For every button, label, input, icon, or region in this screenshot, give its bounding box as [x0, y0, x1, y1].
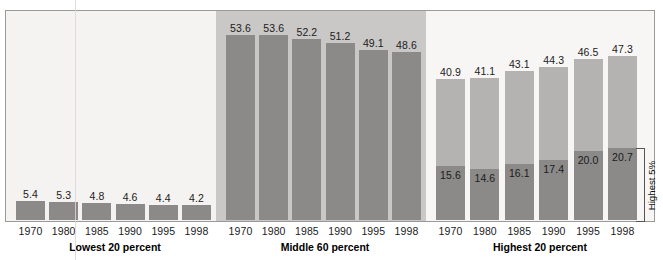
bar-value-label-highest-5-percent: 20.7 — [612, 151, 633, 163]
bar-value-label-highest-5-percent: 14.6 — [474, 172, 495, 184]
bar-value-label: 49.1 — [363, 37, 384, 49]
x-axis-tick-label: 1985 — [507, 225, 531, 237]
bar-segment — [326, 43, 355, 220]
bar-segment-upper — [608, 56, 637, 148]
bar-value-label: 47.3 — [612, 43, 633, 55]
highest-5-percent-label: Highest 5% — [647, 160, 658, 210]
x-axis-tick-label: 1970 — [229, 225, 253, 237]
x-axis-tick-label: 1998 — [395, 225, 419, 237]
x-axis-tick-label: 1995 — [576, 225, 600, 237]
group-label-lowest: Lowest 20 percent — [69, 241, 161, 253]
bar-segment — [16, 201, 45, 220]
x-axis-tick-label: 1995 — [151, 225, 175, 237]
bar-value-label: 44.3 — [543, 54, 564, 66]
bars-layer: 5.45.34.84.64.44.253.653.652.251.249.148… — [5, 10, 655, 222]
bar: 51.2 — [326, 43, 355, 220]
bar: 15.640.9 — [436, 79, 465, 221]
bar-value-label-highest-5-percent: 20.0 — [578, 154, 599, 166]
highest-5-percent-bracket — [636, 148, 645, 222]
x-axis-tick-label: 1980 — [52, 225, 76, 237]
bar-segment — [116, 204, 145, 220]
group-label-highest: Highest 20 percent — [493, 241, 587, 253]
bar-value-label: 4.8 — [89, 190, 104, 202]
x-axis-tick-label: 1990 — [328, 225, 352, 237]
bar: 4.6 — [116, 204, 145, 220]
bar: 20.046.5 — [574, 59, 603, 220]
bar-value-label: 52.2 — [296, 26, 317, 38]
bar-segment — [149, 205, 178, 220]
bar: 53.6 — [259, 35, 288, 220]
x-axis-tick-label: 1995 — [361, 225, 385, 237]
bar: 53.6 — [226, 35, 255, 220]
bar-value-label: 46.5 — [578, 46, 599, 58]
bar-value-label-highest-5-percent: 17.4 — [543, 163, 564, 175]
bar: 49.1 — [359, 50, 388, 220]
bar-value-label-highest-5-percent: 16.1 — [509, 167, 530, 179]
bar-value-label: 4.2 — [189, 192, 204, 204]
bar-value-label: 53.6 — [263, 22, 284, 34]
bar-segment — [49, 202, 78, 220]
bar: 14.641.1 — [470, 78, 499, 220]
bar: 4.2 — [182, 205, 211, 220]
bar: 48.6 — [392, 52, 421, 220]
bar-segment — [226, 35, 255, 220]
bar-segment-upper — [436, 79, 465, 167]
bar: 16.143.1 — [505, 71, 534, 220]
bar-segment — [82, 203, 111, 220]
x-axis-tick-label: 1970 — [19, 225, 43, 237]
bar-segment — [392, 52, 421, 220]
highest-5-percent-label-wrap: Highest 5% — [645, 148, 659, 222]
bar-segment-upper — [470, 78, 499, 170]
x-axis-tick-label: 1998 — [611, 225, 635, 237]
bar-value-label: 5.3 — [56, 189, 71, 201]
bar-segment-upper — [539, 67, 568, 160]
bar-segment-upper — [505, 71, 534, 164]
bar: 4.4 — [149, 205, 178, 220]
bar: 52.2 — [292, 39, 321, 220]
x-axis-tick-label: 1990 — [542, 225, 566, 237]
x-axis-tick-label: 1980 — [262, 225, 286, 237]
bar-segment — [359, 50, 388, 220]
bar-segment-upper — [574, 59, 603, 151]
bar: 20.747.3 — [608, 56, 637, 220]
bar-value-label: 4.4 — [156, 192, 171, 204]
x-axis-tick-label: 1980 — [473, 225, 497, 237]
chart-root: 5.45.34.84.64.44.253.653.652.251.249.148… — [0, 0, 663, 260]
bar-value-label: 5.4 — [23, 188, 38, 200]
bar-segment — [292, 39, 321, 220]
x-axis-tick-label: 1970 — [439, 225, 463, 237]
bar: 5.3 — [49, 202, 78, 220]
bar: 17.444.3 — [539, 67, 568, 220]
bar-value-label: 4.6 — [123, 191, 138, 203]
bar: 4.8 — [82, 203, 111, 220]
bar-segment — [182, 205, 211, 220]
bar-value-label: 43.1 — [509, 58, 530, 70]
bar-value-label: 53.6 — [230, 22, 251, 34]
bar-value-label: 48.6 — [396, 39, 417, 51]
bar: 5.4 — [16, 201, 45, 220]
x-axis-tick-label: 1998 — [185, 225, 209, 237]
bar-value-label-highest-5-percent: 15.6 — [440, 169, 461, 181]
group-label-middle: Middle 60 percent — [281, 241, 370, 253]
bar-segment — [259, 35, 288, 220]
x-axis-tick-label: 1990 — [118, 225, 142, 237]
bar-value-label: 51.2 — [330, 30, 351, 42]
bar-value-label: 41.1 — [474, 65, 495, 77]
x-axis-tick-label: 1985 — [295, 225, 319, 237]
bar-value-label: 40.9 — [440, 66, 461, 78]
x-axis-tick-label: 1985 — [85, 225, 109, 237]
